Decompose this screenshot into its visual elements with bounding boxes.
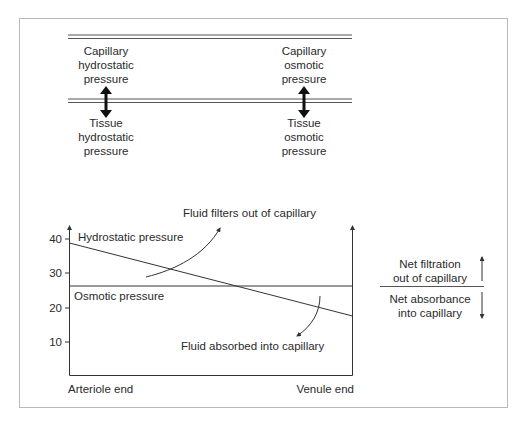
label-line: Capillary <box>264 44 344 58</box>
label-line: pressure <box>264 72 344 86</box>
label-line: pressure <box>64 72 148 86</box>
y-tick-30: 30 <box>40 266 62 280</box>
capillary-upper-wall <box>68 35 352 39</box>
y-tick-10: 10 <box>40 335 62 349</box>
osmotic-pressure-label: Osmotic pressure <box>74 289 164 303</box>
label-line: osmotic <box>264 58 344 72</box>
tissue-osmotic-label: Tissue osmotic pressure <box>264 116 344 158</box>
tissue-hydrostatic-label: Tissue hydrostatic pressure <box>64 116 148 158</box>
y-tick-40: 40 <box>40 232 62 246</box>
absorb-curved-arrow-icon <box>297 296 320 336</box>
capillary-hydrostatic-label: Capillary hydrostatic pressure <box>64 44 148 86</box>
label-line: pressure <box>264 144 344 158</box>
capillary-lower-wall <box>68 99 352 103</box>
hydrostatic-pressure-label: Hydrostatic pressure <box>78 230 183 244</box>
hydrostatic-pressure-line <box>70 243 353 316</box>
label-line: hydrostatic <box>64 58 148 72</box>
label-line: Tissue <box>64 116 148 130</box>
label-line: Capillary <box>64 44 148 58</box>
label-line: Net filtration <box>384 257 476 271</box>
capillary-osmotic-label: Capillary osmotic pressure <box>264 44 344 86</box>
y-tick-20: 20 <box>40 301 62 315</box>
label-line: Net absorbance <box>384 292 476 306</box>
label-line: osmotic <box>264 130 344 144</box>
arteriole-end-label: Arteriole end <box>68 382 133 396</box>
net-filtration-label: Net filtration out of capillary <box>384 257 476 285</box>
label-line: out of capillary <box>384 271 476 285</box>
venule-end-label: Venule end <box>282 382 354 396</box>
net-absorbance-label: Net absorbance into capillary <box>384 292 476 320</box>
label-line: Tissue <box>264 116 344 130</box>
label-line: into capillary <box>384 306 476 320</box>
label-line: hydrostatic <box>64 130 148 144</box>
label-line: pressure <box>64 144 148 158</box>
fluid-absorbed-label: Fluid absorbed into capillary <box>181 339 324 353</box>
fluid-filters-label: Fluid filters out of capillary <box>183 206 316 220</box>
